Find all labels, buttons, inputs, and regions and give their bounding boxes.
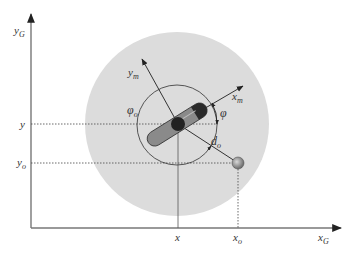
x-tick-label: x bbox=[174, 231, 180, 243]
y-axis-label: yG bbox=[13, 24, 25, 39]
phi-label: φ bbox=[220, 106, 227, 120]
robot-center bbox=[171, 117, 185, 131]
robot-coordinate-diagram: yG xG y yo x xo ym xm φ φo do bbox=[0, 0, 355, 253]
xo-tick-label: xo bbox=[232, 231, 242, 246]
obstacle bbox=[232, 157, 244, 169]
y-tick-label: y bbox=[19, 118, 25, 130]
yo-tick-label: yo bbox=[16, 156, 26, 171]
x-axis-label: xG bbox=[317, 231, 329, 246]
